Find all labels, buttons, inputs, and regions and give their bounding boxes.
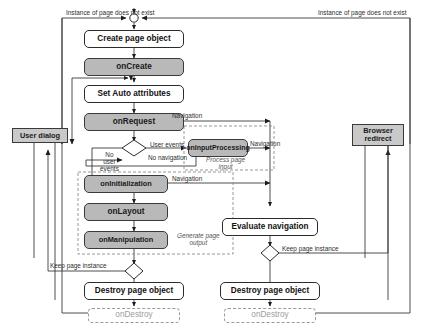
node-on-input-processing[interactable]: onInputProcessing [188, 139, 248, 157]
node-set-auto-attributes[interactable]: Set Auto attributes [84, 85, 184, 103]
label-instance-not-exist-right: Instance of page does not exist [318, 9, 406, 16]
node-evaluate-navigation[interactable]: Evaluate navigation [222, 218, 318, 236]
node-on-request[interactable]: onRequest [84, 113, 184, 131]
node-on-layout[interactable]: onLayout [84, 203, 168, 221]
label-user-events: User events [150, 141, 184, 148]
label-instance-not-exist-left: Instance of page does not exist [66, 9, 154, 16]
node-on-manipulation[interactable]: onManipulation [84, 231, 168, 249]
label-no-navigation: No navigation [148, 154, 187, 161]
node-on-create[interactable]: onCreate [84, 58, 184, 76]
label-keep-page-instance-left: Keep page instance [50, 262, 107, 269]
node-browser-redirect[interactable]: Browser redirect [352, 124, 404, 146]
node-on-destroy-left: onDestroy [88, 308, 180, 323]
node-create-page-object[interactable]: Create page object [84, 30, 184, 48]
diagram-canvas: Create page object onCreate Set Auto att… [0, 0, 426, 329]
label-navigation-input: Navigation [250, 140, 280, 147]
label-navigation-request: Navigation [172, 112, 202, 119]
node-on-destroy-right: onDestroy [224, 308, 316, 323]
node-destroy-page-object-right[interactable]: Destroy page object [220, 282, 320, 300]
label-no-user-events: No user events [100, 151, 119, 173]
node-destroy-page-object-left[interactable]: Destroy page object [84, 282, 184, 300]
label-keep-page-instance-right: Keep page instance [282, 245, 339, 252]
node-user-dialog[interactable]: User dialog [12, 128, 68, 143]
node-on-initialization[interactable]: onInitialization [84, 175, 168, 193]
label-process-page-input: Process page input [206, 156, 245, 170]
label-navigation-init: Navigation [172, 175, 202, 182]
label-generate-page-output: Generate page output [177, 232, 220, 246]
